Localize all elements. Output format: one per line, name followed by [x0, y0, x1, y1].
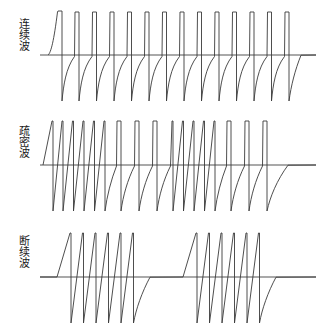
wave-row-continuous: 连续波: [0, 0, 328, 110]
waveform-figure: 连续波 疏密波 断续波: [0, 0, 328, 335]
waveform-plot-intermittent: [0, 222, 328, 335]
wave-row-sparse-dense: 疏密波: [0, 110, 328, 222]
wave-row-intermittent: 断续波: [0, 222, 328, 335]
waveform-path-continuous: [48, 11, 316, 101]
waveform-plot-sparse-dense: [0, 110, 328, 222]
waveform-path-intermittent: [40, 233, 316, 323]
waveform-path-sparse-dense: [43, 121, 316, 211]
waveform-plot-continuous: [0, 0, 328, 110]
